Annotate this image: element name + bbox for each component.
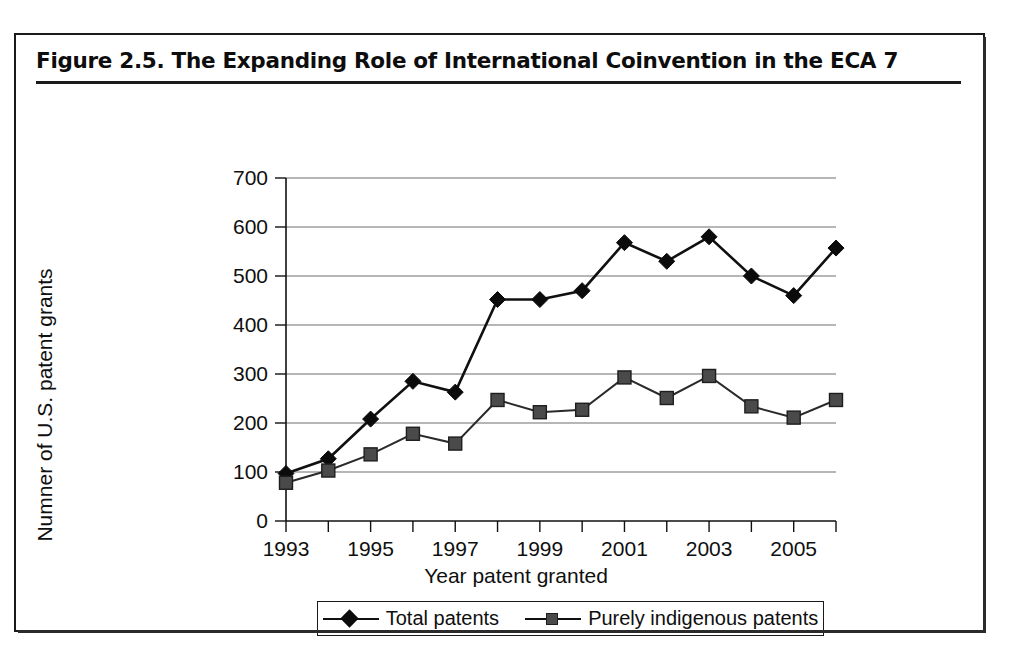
svg-text:300: 300 [233,362,268,385]
svg-text:2001: 2001 [601,537,648,560]
title-block: Figure 2.5. The Expanding Role of Intern… [36,49,961,84]
y-axis: 0100200300400500600700 [233,166,286,532]
chart-legend: Total patents Purely indigenous patents [317,601,824,636]
data-series [278,229,844,489]
x-axis-title: Year patent granted [424,564,608,587]
figure-frame: Figure 2.5. The Expanding Role of Intern… [14,33,985,632]
svg-text:600: 600 [233,215,268,238]
svg-text:100: 100 [233,460,268,483]
svg-text:500: 500 [233,264,268,287]
line-chart: 0100200300400500600700 19931995199719992… [16,105,983,630]
legend-label-total-patents: Total patents [386,607,499,630]
title-underline-rule [36,81,961,84]
legend-entry-total-patents: Total patents [323,607,499,630]
figure-title: Figure 2.5. The Expanding Role of Intern… [36,49,961,74]
svg-text:1997: 1997 [432,537,479,560]
svg-text:400: 400 [233,313,268,336]
svg-text:1999: 1999 [516,537,563,560]
legend-entry-purely-indigenous-patents: Purely indigenous patents [525,607,818,630]
square-marker-icon [525,611,581,627]
chart-plot-area: 0100200300400500600700 19931995199719992… [16,105,983,630]
svg-text:2005: 2005 [770,537,817,560]
svg-text:1993: 1993 [263,537,310,560]
svg-text:2003: 2003 [686,537,733,560]
svg-text:0: 0 [256,509,268,532]
svg-text:1995: 1995 [347,537,394,560]
y-axis-title: Numner of U.S. patent grants [33,268,56,541]
x-axis: 1993199519971999200120032005 [263,521,836,560]
grid-lines [286,178,836,472]
diamond-marker-icon [323,611,379,627]
svg-text:200: 200 [233,411,268,434]
svg-text:700: 700 [233,166,268,189]
legend-label-purely-indigenous-patents: Purely indigenous patents [588,607,818,630]
